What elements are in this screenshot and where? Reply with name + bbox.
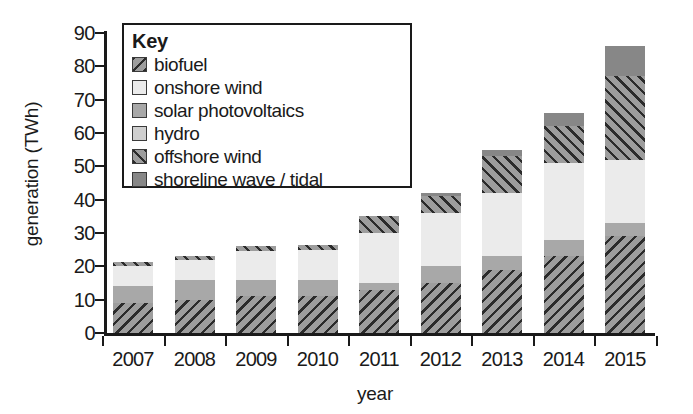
x-tick-mark bbox=[471, 336, 473, 346]
bar-segment-onshore-wind bbox=[113, 266, 153, 286]
x-tick-label: 2012 bbox=[406, 348, 476, 371]
bar-segment-offshore-wind bbox=[482, 156, 522, 193]
bar-segment-solar-photovoltaics bbox=[421, 266, 461, 283]
y-axis-line bbox=[104, 31, 107, 336]
x-tick-mark bbox=[348, 336, 350, 346]
bar-segment-onshore-wind bbox=[605, 160, 645, 223]
bar-segment-biofuel bbox=[359, 290, 399, 333]
y-tick-label: 70 bbox=[51, 90, 95, 110]
x-tick-mark bbox=[410, 336, 412, 346]
bar-segment-solar-photovoltaics bbox=[605, 223, 645, 236]
bar-segment-offshore-wind bbox=[605, 76, 645, 159]
bar-segment-onshore-wind bbox=[482, 193, 522, 256]
bar-segment-shoreline-wave-tidal bbox=[482, 150, 522, 157]
bar-segment-biofuel bbox=[605, 236, 645, 333]
bar-segment-solar-photovoltaics bbox=[359, 283, 399, 290]
x-tick-mark bbox=[225, 336, 227, 346]
legend-item-label: offshore wind bbox=[154, 147, 261, 166]
legend-item-shoreline-wave-tidal: shoreline wave / tidal bbox=[132, 168, 410, 191]
x-tick-mark bbox=[102, 336, 104, 346]
legend-item-label: biofuel bbox=[154, 55, 207, 74]
bar-segment-onshore-wind bbox=[175, 260, 215, 280]
bar-segment-shoreline-wave-tidal bbox=[544, 113, 584, 126]
pale-swatch bbox=[132, 126, 147, 141]
bar-segment-solar-photovoltaics bbox=[236, 280, 276, 297]
bar-segment-biofuel bbox=[236, 296, 276, 333]
legend-items: biofuelonshore windsolar photovoltaicshy… bbox=[132, 53, 410, 191]
x-tick-label: 2008 bbox=[160, 348, 230, 371]
bar-segment-offshore-wind bbox=[113, 262, 153, 266]
bar-segment-biofuel bbox=[421, 283, 461, 333]
legend-item-label: solar photovoltaics bbox=[154, 101, 304, 120]
legend-title: Key bbox=[132, 30, 410, 52]
bar-segment-offshore-wind bbox=[175, 256, 215, 259]
bar-segment-offshore-wind bbox=[298, 245, 338, 250]
y-tick-label: 0 bbox=[51, 323, 95, 343]
y-axis-ticks: 0102030405060708090 bbox=[0, 0, 95, 414]
bar-segment-solar-photovoltaics bbox=[175, 280, 215, 300]
y-tick-label: 20 bbox=[51, 256, 95, 276]
x-tick-label: 2014 bbox=[529, 348, 599, 371]
x-axis-title: year bbox=[95, 383, 655, 405]
y-tick-label: 10 bbox=[51, 290, 95, 310]
y-tick-label: 30 bbox=[51, 223, 95, 243]
y-tick-label: 80 bbox=[51, 56, 95, 76]
x-tick-label: 2009 bbox=[221, 348, 291, 371]
x-tick-label: 2011 bbox=[344, 348, 414, 371]
legend-item-onshore-wind: onshore wind bbox=[132, 76, 410, 99]
x-tick-mark bbox=[287, 336, 289, 346]
bar-segment-biofuel bbox=[544, 256, 584, 333]
legend: Key biofuelonshore windsolar photovoltai… bbox=[122, 23, 412, 188]
bar-segment-solar-photovoltaics bbox=[482, 256, 522, 269]
x-tick-mark bbox=[533, 336, 535, 346]
mid-grey-swatch bbox=[132, 103, 147, 118]
legend-item-offshore-wind: offshore wind bbox=[132, 145, 410, 168]
y-tick-label: 90 bbox=[51, 23, 95, 43]
legend-item-biofuel: biofuel bbox=[132, 53, 410, 76]
y-tick-label: 50 bbox=[51, 156, 95, 176]
bar-segment-solar-photovoltaics bbox=[544, 240, 584, 257]
bar-segment-solar-photovoltaics bbox=[298, 280, 338, 297]
legend-item-label: onshore wind bbox=[154, 78, 262, 97]
bar-segment-biofuel bbox=[482, 270, 522, 333]
legend-item-solar-photovoltaics: solar photovoltaics bbox=[132, 99, 410, 122]
x-tick-label: 2010 bbox=[283, 348, 353, 371]
bar-segment-offshore-wind bbox=[359, 216, 399, 233]
bar-segment-biofuel bbox=[113, 303, 153, 333]
bar-segment-onshore-wind bbox=[421, 213, 461, 266]
hatch-back-swatch bbox=[132, 57, 147, 72]
x-tick-label: 2013 bbox=[467, 348, 537, 371]
bar-segment-offshore-wind bbox=[236, 246, 276, 251]
legend-item-label: hydro bbox=[154, 124, 200, 143]
x-tick-mark bbox=[656, 336, 658, 346]
bar-segment-biofuel bbox=[175, 300, 215, 333]
x-tick-label: 2015 bbox=[590, 348, 660, 371]
hatch-forward-swatch bbox=[132, 149, 147, 164]
dark-swatch bbox=[132, 172, 147, 187]
bar-segment-shoreline-wave-tidal bbox=[421, 193, 461, 196]
stacked-bar-chart: generation (TWh) 0102030405060708090 200… bbox=[0, 0, 693, 414]
bar-segment-biofuel bbox=[298, 296, 338, 333]
bar-segment-onshore-wind bbox=[236, 251, 276, 279]
bar-segment-onshore-wind bbox=[544, 163, 584, 240]
bar-segment-onshore-wind bbox=[298, 250, 338, 280]
x-tick-mark bbox=[594, 336, 596, 346]
bar-segment-offshore-wind bbox=[544, 126, 584, 163]
bar-segment-solar-photovoltaics bbox=[113, 286, 153, 303]
x-tick-mark bbox=[164, 336, 166, 346]
x-tick-label: 2007 bbox=[98, 348, 168, 371]
legend-item-label: shoreline wave / tidal bbox=[154, 170, 323, 189]
y-tick-label: 60 bbox=[51, 123, 95, 143]
bar-segment-onshore-wind bbox=[359, 233, 399, 283]
bar-segment-shoreline-wave-tidal bbox=[605, 46, 645, 76]
y-tick-label: 40 bbox=[51, 190, 95, 210]
light-swatch bbox=[132, 80, 147, 95]
bar-segment-offshore-wind bbox=[421, 196, 461, 213]
legend-item-hydro: hydro bbox=[132, 122, 410, 145]
